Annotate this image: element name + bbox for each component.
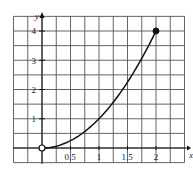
- x-tick-2: 2: [154, 152, 159, 162]
- open-endpoint: [39, 145, 45, 151]
- x-tick-1-5: 1.5: [121, 152, 133, 162]
- y-tick-1: 1: [32, 114, 37, 124]
- x-axis-label: x: [188, 150, 193, 160]
- x-tick-1: 1: [97, 152, 102, 162]
- x-tick-0-5: 0.5: [64, 152, 76, 162]
- y-axis-label: y: [34, 11, 39, 21]
- function-graph: x y 0.5 1 1.5 2 1 2 3 4: [0, 0, 193, 171]
- closed-endpoint: [153, 28, 159, 34]
- y-axis-arrow-icon: [40, 12, 45, 18]
- y-tick-3: 3: [32, 56, 37, 66]
- y-tick-4: 4: [32, 26, 37, 36]
- y-tick-2: 2: [32, 85, 37, 95]
